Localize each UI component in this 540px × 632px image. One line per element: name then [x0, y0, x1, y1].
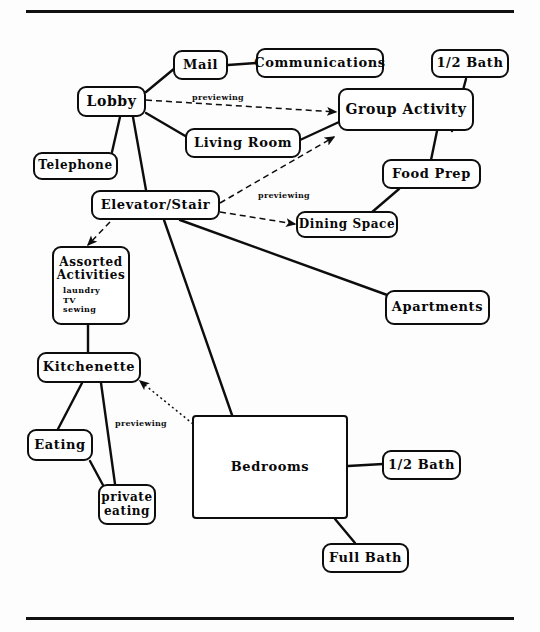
node-private_eating[interactable]: private eating [98, 484, 156, 525]
node-subitem-assorted-2: sewing [63, 305, 128, 315]
connector-solid-2 [112, 117, 120, 152]
connector-solid-10 [164, 220, 232, 415]
diagram-canvas: MailCommunications1/2 BathLobbyGroup Act… [0, 0, 540, 632]
connector-solid-12 [58, 383, 82, 429]
node-assorted[interactable]: Assorted ActivitieslaundryTVsewing [52, 246, 130, 325]
connector-dashed-2 [220, 212, 295, 224]
node-label-full_bath: Full Bath [329, 551, 402, 566]
connector-solid-3 [133, 117, 146, 190]
node-telephone[interactable]: Telephone [33, 152, 118, 180]
node-label-dining_space: Dining Space [299, 218, 396, 231]
node-label-group_activity: Group Activity [345, 102, 466, 118]
node-mail[interactable]: Mail [173, 50, 228, 80]
top-horizontal-rule [26, 10, 514, 13]
edge-label-prev_lobby_group: previewing [192, 92, 244, 102]
node-lobby[interactable]: Lobby [77, 86, 146, 117]
connector-solid-16 [335, 519, 355, 543]
node-label-assorted: Assorted Activities [57, 256, 126, 283]
edge-label-prev_bed_kitchen: previewing [115, 418, 167, 428]
connector-solid-13 [101, 383, 115, 484]
connector-solid-15 [348, 464, 383, 466]
node-food_prep[interactable]: Food Prep [382, 159, 481, 189]
node-apartments[interactable]: Apartments [385, 290, 490, 325]
node-label-apartments: Apartments [392, 300, 483, 315]
node-label-kitchenette: Kitchenette [43, 360, 135, 375]
connector-dashed-3 [88, 222, 110, 245]
node-half_bath_top[interactable]: 1/2 Bath [431, 49, 509, 78]
node-kitchenette[interactable]: Kitchenette [37, 352, 141, 383]
bottom-horizontal-rule [26, 617, 514, 620]
connector-solid-8 [371, 189, 399, 213]
node-elevator_stair[interactable]: Elevator/Stair [91, 190, 220, 220]
node-label-half_bath_bed: 1/2 Bath [388, 458, 455, 473]
node-label-eating: Eating [34, 438, 85, 453]
node-label-telephone: Telephone [38, 159, 112, 172]
connector-solid-4 [146, 113, 187, 137]
node-label-mail: Mail [183, 58, 218, 73]
node-label-food_prep: Food Prep [392, 167, 471, 182]
edge-label-prev_elev_dining: previewing [258, 190, 310, 200]
node-dining_space[interactable]: Dining Space [296, 211, 398, 238]
connector-solid-0 [146, 68, 175, 92]
node-label-living_room: Living Room [194, 136, 292, 151]
node-label-half_bath_top: 1/2 Bath [436, 56, 503, 71]
node-bedrooms[interactable]: Bedrooms [192, 415, 348, 519]
node-label-bedrooms: Bedrooms [231, 460, 309, 475]
node-group_activity[interactable]: Group Activity [338, 88, 474, 131]
node-label-communications: Communications [254, 56, 386, 71]
node-communications[interactable]: Communications [256, 48, 384, 78]
node-label-private_eating: private eating [101, 491, 152, 518]
connector-solid-14 [90, 461, 104, 487]
node-eating[interactable]: Eating [27, 429, 93, 461]
connector-solid-1 [228, 63, 256, 65]
node-label-elevator_stair: Elevator/Stair [101, 198, 210, 213]
connector-solid-7 [431, 131, 437, 160]
node-half_bath_bed[interactable]: 1/2 Bath [382, 450, 461, 480]
node-full_bath[interactable]: Full Bath [322, 543, 409, 573]
node-sublist-assorted: laundryTVsewing [54, 286, 128, 315]
node-label-lobby: Lobby [87, 94, 137, 110]
node-living_room[interactable]: Living Room [185, 128, 301, 158]
